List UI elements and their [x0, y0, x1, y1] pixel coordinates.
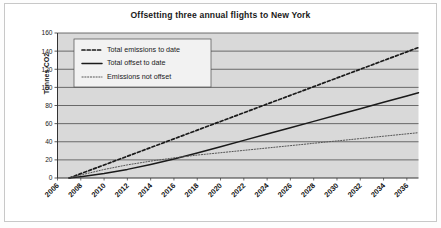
y-tick-label: 20	[45, 156, 53, 163]
plot-area: 020406080100120140160 200620082010201220…	[0, 0, 441, 228]
y-tick-label: 60	[45, 120, 53, 127]
legend-label: Total emissions to date	[107, 45, 180, 54]
x-tick-label: 2028	[299, 181, 317, 199]
y-tick-label: 40	[45, 138, 53, 145]
x-tick-label: 2020	[206, 181, 224, 199]
chart-legend: Total emissions to dateTotal offset to d…	[74, 39, 211, 87]
x-tick-label: 2034	[369, 180, 388, 199]
chart-figure: Offsetting three annual flights to New Y…	[0, 0, 441, 228]
y-tick-label: 160	[41, 29, 52, 36]
x-tick-label: 2022	[229, 181, 247, 199]
x-tick-label: 2036	[392, 181, 410, 199]
x-tick-label: 2012	[113, 181, 131, 199]
x-tick-label: 2016	[159, 181, 177, 199]
x-tick-label: 2010	[89, 181, 107, 199]
x-tick-label: 2014	[136, 180, 155, 199]
legend-label: Total offset to date	[107, 58, 166, 67]
legend-label: Emissions not offset	[107, 72, 171, 81]
x-tick-label: 2030	[322, 181, 340, 199]
x-tick-labels-group: 2006200820102012201420162018202020222024…	[43, 178, 410, 199]
x-tick-label: 2026	[276, 181, 294, 199]
x-tick-label: 2024	[253, 180, 272, 199]
y-tick-label: 140	[41, 48, 52, 55]
y-tick-label: 120	[41, 66, 52, 73]
y-tick-label: 80	[45, 102, 53, 109]
y-tick-label: 100	[41, 84, 52, 91]
y-tick-labels-group: 020406080100120140160	[41, 29, 57, 181]
x-tick-label: 2008	[66, 181, 84, 199]
x-tick-label: 2032	[346, 181, 364, 199]
y-tick-label: 0	[49, 174, 53, 181]
x-tick-label: 2006	[43, 181, 61, 199]
x-tick-label: 2018	[183, 181, 201, 199]
